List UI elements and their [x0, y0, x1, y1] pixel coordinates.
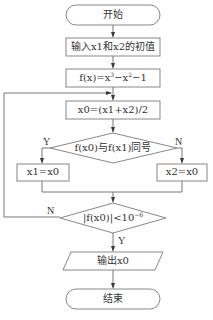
arrow-head-icon — [111, 32, 115, 38]
arrow-head-icon — [106, 91, 112, 95]
function-label: f(x)=x3−x2−1 — [66, 72, 160, 84]
arrow-head-icon — [180, 158, 184, 164]
arrow-head-icon — [111, 246, 115, 252]
input-label: 输入x1和x2的初值 — [66, 41, 160, 53]
sign-yes-label: Y — [43, 137, 50, 147]
arrow-head-icon — [111, 127, 115, 133]
connector-merge — [42, 181, 182, 192]
sign-decision-label: f(x0)与f(x1)同号 — [66, 142, 160, 154]
start-label: 开始 — [66, 9, 160, 21]
assign-x2-label: x2=x0 — [157, 166, 207, 178]
function-base: f(x)=x — [79, 72, 110, 83]
arrow-head-icon — [111, 63, 115, 69]
tolerance-no-label: N — [47, 206, 54, 216]
tolerance-exp: −6 — [134, 211, 143, 218]
midpoint-label: x0=(x1+x2)/2 — [66, 104, 160, 116]
arrow-head-icon — [111, 95, 115, 101]
tolerance-base: |f(x0)|<10 — [83, 212, 134, 223]
assign-x1-label: x1=x0 — [17, 166, 69, 178]
function-tail: −1 — [132, 72, 147, 83]
output-label: 输出x0 — [66, 255, 160, 267]
arrow-head-icon — [111, 197, 115, 203]
arrow-head-icon — [111, 283, 115, 289]
function-mid: −x — [114, 72, 128, 83]
end-label: 结束 — [66, 293, 160, 305]
tolerance-yes-label: Y — [118, 236, 125, 246]
sign-no-label: N — [175, 137, 182, 147]
tolerance-decision-label: |f(x0)|<10−6 — [66, 212, 160, 224]
arrow-head-icon — [40, 158, 44, 164]
